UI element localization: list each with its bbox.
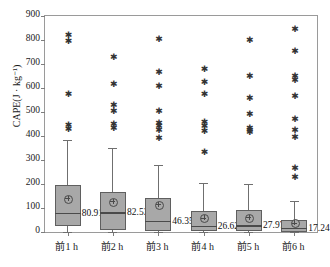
y-axis-tick-labels: 9008007006005004003002001000 (14, 0, 40, 267)
outlier-marker: ✱ (155, 35, 161, 43)
outlier-marker: ✱ (246, 94, 252, 102)
whisker-upper (248, 184, 249, 210)
whisker-upper (294, 201, 295, 220)
outlier-marker: ✱ (246, 128, 252, 136)
cap-upper (108, 148, 117, 149)
cap-lower (199, 232, 208, 233)
outlier-marker: ✱ (110, 80, 116, 88)
y-tick-label: 600 (14, 82, 40, 91)
y-tick-label: 800 (14, 34, 40, 43)
outlier-marker: ✱ (291, 47, 297, 55)
box-plot-group[interactable]: ✱✱✱✱✱✱✱ (226, 16, 271, 232)
box-plot-group[interactable]: ✱✱✱✱✱✱✱✱ (136, 16, 181, 232)
outlier-marker: ✱ (291, 76, 297, 84)
y-tick-mark (41, 232, 45, 233)
outlier-marker: ✱ (110, 107, 116, 115)
outlier-marker: ✱ (246, 110, 252, 118)
median-line (100, 212, 126, 213)
cap-upper (290, 201, 299, 202)
x-tick-label: 前1 h (42, 238, 92, 253)
y-tick-label: 100 (14, 202, 40, 211)
mean-marker (155, 201, 164, 210)
outlier-marker: ✱ (246, 36, 252, 44)
box-plot-group[interactable]: ✱✱✱✱✱✱✱✱✱✱ (272, 16, 317, 232)
outlier-marker: ✱ (201, 148, 207, 156)
box-plot-group[interactable]: ✱✱✱✱✱ (45, 16, 90, 232)
median-line (191, 226, 217, 227)
x-tick-label: 前3 h (132, 238, 182, 253)
cap-upper (199, 183, 208, 184)
plot-area: 80.91✱✱✱✱✱82.53✱✱✱✱✱✱46.35✱✱✱✱✱✱✱✱26.62✱… (44, 15, 318, 233)
outlier-marker: ✱ (291, 133, 297, 141)
cap-upper (244, 184, 253, 185)
x-tick-label: 前6 h (268, 238, 318, 253)
y-tick-label: 0 (14, 226, 40, 235)
outlier-marker: ✱ (155, 134, 161, 142)
outlier-marker: ✱ (65, 90, 71, 98)
whisker-upper (112, 148, 113, 192)
outlier-marker: ✱ (291, 25, 297, 33)
outlier-marker: ✱ (155, 82, 161, 90)
y-tick-label: 200 (14, 178, 40, 187)
outlier-marker: ✱ (201, 65, 207, 73)
outlier-marker: ✱ (201, 90, 207, 98)
cap-lower (108, 232, 117, 233)
box-iqr (55, 185, 81, 226)
cap-upper (154, 165, 163, 166)
y-tick-label: 700 (14, 58, 40, 67)
outlier-marker: ✱ (291, 173, 297, 181)
outlier-marker: ✱ (201, 127, 207, 135)
cap-lower (154, 232, 163, 233)
whisker-upper (67, 140, 68, 185)
outlier-marker: ✱ (65, 125, 71, 133)
outlier-marker: ✱ (246, 72, 252, 80)
whisker-upper (203, 183, 204, 211)
cap-lower (244, 232, 253, 233)
mean-marker (64, 195, 73, 204)
cap-lower (290, 232, 299, 233)
outlier-marker: ✱ (291, 115, 297, 123)
y-tick-label: 300 (14, 154, 40, 163)
outlier-marker: ✱ (155, 107, 161, 115)
whisker-upper (158, 165, 159, 198)
box-plot-group[interactable]: ✱✱✱✱✱✱ (90, 16, 135, 232)
x-tick-label: 前2 h (87, 238, 137, 253)
box-plot-group[interactable]: ✱✱✱✱✱✱✱ (181, 16, 226, 232)
outlier-marker: ✱ (155, 68, 161, 76)
median-line (281, 228, 307, 229)
outlier-marker: ✱ (201, 78, 207, 86)
x-tick-label: 前4 h (178, 238, 228, 253)
outlier-marker: ✱ (291, 92, 297, 100)
y-tick-label: 900 (14, 10, 40, 19)
cap-lower (63, 232, 72, 233)
x-tick-label: 前5 h (223, 238, 273, 253)
cap-upper (63, 140, 72, 141)
y-tick-label: 400 (14, 130, 40, 139)
outlier-marker: ✱ (110, 124, 116, 132)
y-tick-label: 500 (14, 106, 40, 115)
median-line (145, 221, 171, 222)
median-line (55, 213, 81, 214)
median-line (236, 225, 262, 226)
outlier-marker: ✱ (110, 53, 116, 61)
outlier-marker: ✱ (65, 37, 71, 45)
